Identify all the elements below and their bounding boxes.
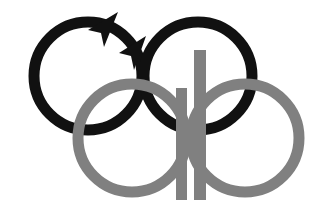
short-bar xyxy=(176,88,187,200)
tall-bar xyxy=(194,50,206,200)
logo-artwork xyxy=(0,0,333,216)
logo-canvas xyxy=(0,0,333,216)
